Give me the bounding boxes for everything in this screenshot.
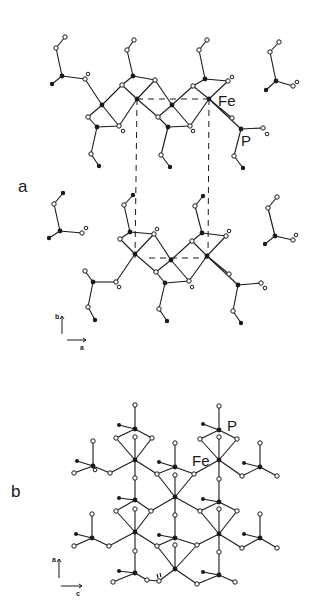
filled-atoms [47,74,279,326]
panel-a-axis-indicator [60,316,86,342]
panel-a-fe-label: Fe [218,92,236,109]
panel-b-axis-horizontal-label: c [76,590,80,597]
panel-a-structure-drawing [0,0,320,360]
panel-b-axis-vertical-label: a [52,556,56,563]
open-atoms [52,35,299,313]
panel-b-axis-indicator [57,559,82,588]
panel-a-axis-horizontal-label: a [80,344,84,351]
panel-b-label: b [11,482,20,502]
panel-b-fe-label: Fe [192,452,210,469]
panel-b-open-atoms [72,403,279,586]
crystal-structure-figure: a Fe P b a b Fe P a c [0,0,320,614]
panel-a-p-label: P [241,132,251,149]
panel-b-p-label: P [227,417,237,434]
panel-a-axis-vertical-label: b [55,313,59,320]
panel-a-label: a [18,177,27,197]
unit-cell-outline [135,99,209,258]
panel-b-filled-atoms [74,422,262,577]
